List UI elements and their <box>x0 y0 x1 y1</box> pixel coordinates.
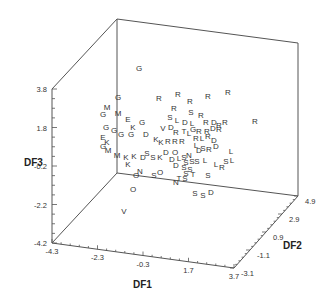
data-point-label: R <box>225 88 231 97</box>
z-tick-label: 3.8 <box>37 85 47 94</box>
data-point-label: R <box>252 117 258 126</box>
data-point-label: R <box>205 92 211 101</box>
data-point-label: R <box>216 125 222 134</box>
data-point-label: K <box>125 160 131 169</box>
data-point-label: S <box>188 108 193 117</box>
y-tick-label: -3.1 <box>241 269 254 278</box>
y-tick-label: -1.1 <box>257 251 270 260</box>
data-point-label: M <box>114 151 121 160</box>
data-point-label: S <box>205 171 210 180</box>
data-point-label: R <box>187 97 193 106</box>
data-point-label: S <box>182 174 187 183</box>
data-point-label: G <box>111 126 117 135</box>
z-tick-label: 1.8 <box>37 124 47 133</box>
data-point-label: R <box>172 137 178 146</box>
data-point-label: S <box>150 153 155 162</box>
y-tick-label: 2.9 <box>289 215 299 224</box>
data-point-label: D <box>182 118 188 127</box>
data-point-label: M <box>105 146 112 155</box>
data-point-label: R <box>222 118 228 127</box>
y-axis-label: DF2 <box>283 240 302 251</box>
data-point-label: R <box>156 94 162 103</box>
data-point-label: S <box>167 113 172 122</box>
data-point-label: G <box>103 123 109 132</box>
data-point-label: G <box>139 118 145 127</box>
x-axis-ticks: -4.3-2.3-0.31.73.7 <box>46 239 240 281</box>
data-point-label: R <box>171 104 177 113</box>
data-point-label: S <box>200 191 205 200</box>
data-point-label: S <box>194 157 199 166</box>
data-point-label: D <box>213 142 219 151</box>
data-point-label: R <box>165 137 171 146</box>
data-point-label: G <box>100 110 106 119</box>
data-point-label: K <box>158 138 164 147</box>
data-point-label: D <box>143 130 149 139</box>
data-point-label: T <box>191 170 196 179</box>
data-point-label: R <box>203 118 209 127</box>
data-point-label: O <box>130 185 136 194</box>
x-tick-label: -0.3 <box>137 260 150 269</box>
data-points: GGRRRRRRMMGRSREGSLDLRDRRGGKVDRTLGRRDREGG… <box>100 64 258 216</box>
data-point-label: S <box>151 171 156 180</box>
data-point-label: L <box>175 116 180 125</box>
x-tick-label: -4.3 <box>46 247 59 256</box>
data-point-label: L <box>203 156 208 165</box>
x-tick-label: -2.3 <box>91 253 104 262</box>
data-point-label: L <box>200 134 205 143</box>
data-point-label: V <box>160 124 166 133</box>
z-tick-label: -2.2 <box>34 201 47 210</box>
data-point-label: S <box>192 189 197 198</box>
data-point-label: T <box>177 174 182 183</box>
scatter-3d-chart: -4.2-2.2-0.21.83.8 -4.3-2.3-0.31.73.7 -3… <box>0 0 326 296</box>
data-point-label: V <box>121 207 127 216</box>
data-point-label: R <box>206 145 212 154</box>
x-tick-label: 1.7 <box>183 266 193 275</box>
data-point-label: O <box>133 171 139 180</box>
z-axis-label: DF3 <box>24 157 43 168</box>
x-tick-label: 3.7 <box>229 272 239 281</box>
data-point-label: K <box>131 152 137 161</box>
x-axis-label: DF1 <box>133 279 152 290</box>
data-point-label: L <box>214 160 219 169</box>
y-tick-label: 0.9 <box>273 233 283 242</box>
data-point-label: L <box>229 147 234 156</box>
data-point-label: R <box>173 128 179 137</box>
data-point-label: G <box>115 93 121 102</box>
data-point-label: L <box>230 156 235 165</box>
data-point-label: O <box>157 168 163 177</box>
data-point-label: G <box>128 130 134 139</box>
data-point-label: R <box>175 90 181 99</box>
data-point-label: D <box>196 146 202 155</box>
y-tick-label: 4.9 <box>305 197 315 206</box>
data-point-label: G <box>118 130 124 139</box>
data-point-label: D <box>173 161 179 170</box>
data-point-label: G <box>136 64 142 73</box>
y-axis-ticks: -3.1-1.10.92.94.9 <box>230 196 315 278</box>
data-point-label: D <box>208 188 214 197</box>
data-point-label: D <box>140 153 146 162</box>
data-point-label: M <box>115 109 122 118</box>
data-point-label: R <box>179 137 185 146</box>
data-point-label: R <box>219 163 225 172</box>
